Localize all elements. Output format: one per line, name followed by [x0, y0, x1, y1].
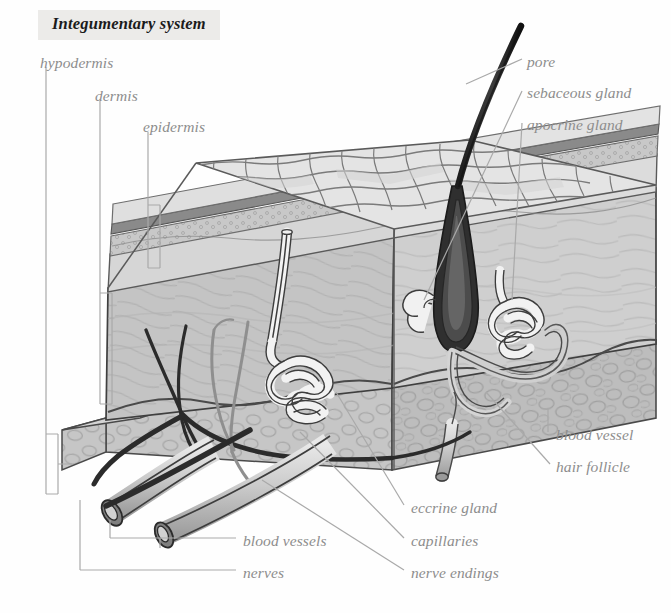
- label-pore: pore: [527, 54, 555, 70]
- label-nerves: nerves: [243, 565, 284, 581]
- leader-nerve-endings: [262, 480, 404, 570]
- label-capillaries: capillaries: [411, 533, 478, 549]
- page-title: Integumentary system: [38, 10, 220, 40]
- label-dermis: dermis: [95, 88, 138, 104]
- label-blood-vessel: blood vessel: [556, 427, 633, 443]
- capillary-stub-opening: [436, 473, 448, 481]
- label-hypodermis: hypodermis: [40, 55, 113, 71]
- diagram-canvas: Integumentary system hypodermis dermis e…: [0, 0, 671, 613]
- pore-opening-left: [282, 230, 292, 235]
- label-apocrine-gland: apocrine gland: [527, 117, 623, 133]
- label-eccrine-gland: eccrine gland: [411, 500, 497, 516]
- label-hair-follicle: hair follicle: [556, 459, 630, 475]
- label-blood-vessels: blood vessels: [243, 533, 327, 549]
- label-epidermis: epidermis: [143, 119, 205, 135]
- label-nerve-endings: nerve endings: [411, 565, 499, 581]
- skin-block: [62, 106, 660, 470]
- label-sebaceous-gland: sebaceous gland: [527, 85, 631, 101]
